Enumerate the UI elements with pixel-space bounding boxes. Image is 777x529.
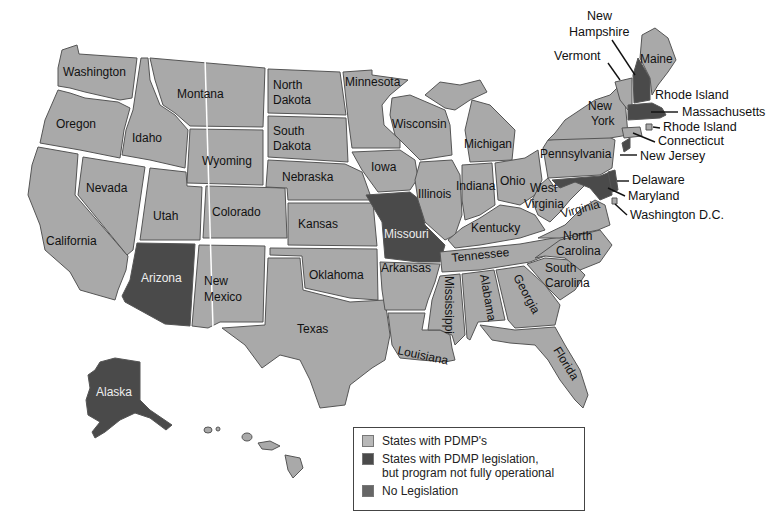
label-colorado: Colorado	[212, 205, 261, 219]
label-utah: Utah	[153, 209, 178, 223]
state-new-jersey[interactable]	[622, 138, 630, 152]
label-west-virginia-2: Virginia	[524, 197, 564, 211]
label-alaska: Alaska	[96, 385, 132, 399]
label-south-dakota-2: Dakota	[273, 139, 311, 153]
legend-item-no-legislation: No Legislation	[362, 484, 576, 498]
callout-connecticut: Connecticut	[658, 134, 725, 148]
legend-label-line1: States with PDMP legislation,	[382, 452, 539, 466]
label-maine: Maine	[640, 52, 673, 66]
label-iowa: Iowa	[371, 160, 397, 174]
label-oregon: Oregon	[56, 117, 96, 131]
state-connecticut[interactable]	[622, 127, 642, 138]
label-illinois: Illinois	[418, 187, 451, 201]
callout-rhode-island-upper: Rhode Island	[655, 88, 729, 102]
callout-vermont: Vermont	[554, 49, 601, 63]
label-south-carolina-1: South	[545, 261, 576, 275]
label-north-carolina-1: North	[563, 229, 592, 243]
legend-swatch-dark	[362, 453, 374, 465]
label-ohio: Ohio	[500, 174, 526, 188]
callout-massachusetts: Massachusetts	[682, 105, 765, 119]
label-missouri: Missouri	[384, 227, 429, 241]
callout-rhode-island-lower: Rhode Island	[663, 120, 737, 134]
callout-washington-dc: Washington D.C.	[630, 208, 724, 222]
label-pennsylvania: Pennsylvania	[540, 147, 612, 161]
legend-label-line2: but program not fully operational	[382, 466, 554, 480]
label-indiana: Indiana	[456, 179, 496, 193]
callout-maryland: Maryland	[628, 189, 679, 203]
state-washington-dc[interactable]	[612, 198, 617, 204]
label-new-york-1: New	[588, 99, 612, 113]
label-wisconsin: Wisconsin	[392, 117, 447, 131]
legend-item-not-operational: States with PDMP legislation, but progra…	[362, 452, 576, 480]
label-new-mexico-1: New	[204, 274, 228, 288]
callout-new-jersey: New Jersey	[640, 149, 706, 163]
label-mississippi: Mississippi	[442, 276, 456, 334]
label-wyoming: Wyoming	[202, 154, 252, 168]
callout-new-hampshire-1: New	[587, 9, 613, 23]
state-new-mexico[interactable]	[192, 245, 265, 328]
label-north-dakota-1: North	[273, 78, 302, 92]
state-hawaii[interactable]	[204, 427, 303, 478]
label-new-mexico-2: Mexico	[204, 290, 242, 304]
label-idaho: Idaho	[132, 131, 162, 145]
legend-item-pdmp: States with PDMP's	[362, 434, 576, 448]
label-new-york-2: York	[591, 114, 616, 128]
legend-swatch-light	[362, 435, 374, 447]
label-california: California	[46, 234, 97, 248]
label-oklahoma: Oklahoma	[309, 268, 364, 282]
state-north-dakota[interactable]	[268, 69, 346, 115]
label-kansas: Kansas	[298, 217, 338, 231]
label-north-carolina-2: Carolina	[556, 244, 601, 258]
label-texas: Texas	[297, 322, 328, 336]
callout-delaware: Delaware	[632, 173, 685, 187]
label-west-virginia-1: West	[530, 181, 558, 195]
legend: States with PDMP's States with PDMP legi…	[353, 427, 585, 511]
label-minnesota: Minnesota	[345, 75, 401, 89]
callout-new-hampshire-2: Hampshire	[569, 25, 629, 39]
legend-label: States with PDMP's	[382, 434, 487, 448]
label-michigan: Michigan	[464, 137, 512, 151]
label-nebraska: Nebraska	[282, 170, 334, 184]
legend-label: No Legislation	[382, 484, 458, 498]
legend-swatch-medium	[362, 485, 374, 497]
state-rhode-island[interactable]	[646, 124, 652, 130]
label-montana: Montana	[177, 87, 224, 101]
label-north-dakota-2: Dakota	[273, 93, 311, 107]
legend-label: States with PDMP legislation, but progra…	[382, 452, 554, 480]
label-arkansas: Arkansas	[381, 261, 431, 275]
label-arizona: Arizona	[141, 271, 182, 285]
label-south-dakota-1: South	[273, 124, 304, 138]
label-south-carolina-2: Carolina	[545, 276, 590, 290]
label-washington: Washington	[63, 65, 126, 79]
label-kentucky: Kentucky	[471, 221, 520, 235]
state-michigan[interactable]	[465, 100, 515, 162]
label-nevada: Nevada	[86, 181, 128, 195]
